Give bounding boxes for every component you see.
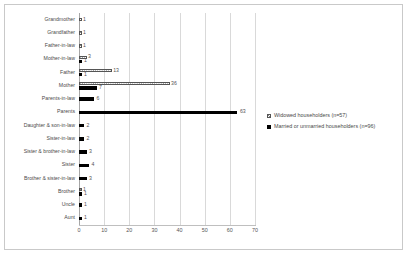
- bar-value-label: 36: [171, 81, 177, 86]
- bar-married: 6: [79, 97, 94, 100]
- bar-rows: Grandmother1Grandfather1Father-in-law1Mo…: [79, 13, 255, 225]
- bar-married: 3: [79, 150, 87, 153]
- bar-row: Parents63: [79, 106, 255, 119]
- bar-row: Daughter & son-in-law2: [79, 119, 255, 132]
- bar-row: Sister-in-law2: [79, 132, 255, 145]
- bar-value-label: 1: [83, 44, 86, 49]
- bar-value-label: 1: [83, 17, 86, 22]
- x-tick-label: 0: [78, 228, 81, 233]
- x-tick-label: 40: [177, 228, 183, 233]
- bar-married: 1: [79, 203, 82, 206]
- bar-row: Sister4: [79, 159, 255, 172]
- bar-value-label: 7: [99, 85, 102, 90]
- category-label: Aunt: [64, 216, 75, 221]
- x-tick-label: 60: [227, 228, 233, 233]
- plot-area: Grandmother1Grandfather1Father-in-law1Mo…: [79, 13, 255, 225]
- legend-item[interactable]: Widowed householders (n=57): [267, 113, 407, 118]
- legend-label: Widowed householders (n=57): [274, 113, 347, 118]
- category-label: Father-in-law: [45, 44, 75, 49]
- category-label: Brother & sister-in-law: [24, 176, 75, 181]
- bar-married: 1: [79, 60, 82, 63]
- category-label: Grandfather: [47, 30, 75, 35]
- bar-widowed: 1: [79, 44, 82, 47]
- legend-swatch-married-icon: [267, 125, 271, 129]
- gridline-70: [255, 13, 256, 225]
- x-tick-label: 20: [126, 228, 132, 233]
- category-label: Sister-in-law: [46, 136, 75, 141]
- bar-value-label: 1: [83, 30, 86, 35]
- bar-value-label: 63: [240, 110, 246, 115]
- category-label: Father: [60, 70, 75, 75]
- bar-value-label: 3: [89, 176, 92, 181]
- category-label: Daughter & son-in-law: [24, 123, 75, 128]
- x-tick-label: 70: [252, 228, 258, 233]
- bar-married: 2: [79, 137, 84, 140]
- category-label: Sister & brother-in-law: [24, 150, 75, 155]
- legend-swatch-widowed-icon: [267, 114, 271, 118]
- bar-widowed: 1: [79, 31, 82, 34]
- bar-married: 1: [79, 192, 82, 195]
- bar-married: 63: [79, 111, 237, 114]
- chart-container: Grandmother1Grandfather1Father-in-law1Mo…: [4, 4, 403, 250]
- bar-married: 2: [79, 124, 84, 127]
- bar-widowed: 1: [79, 188, 82, 191]
- bar-row: Grandfather1: [79, 26, 255, 39]
- category-label: Parents-in-law: [42, 97, 75, 102]
- category-label: Parents: [57, 110, 75, 115]
- bar-widowed: 1: [79, 18, 82, 21]
- bar-value-label: 1: [84, 59, 87, 64]
- bar-married: 4: [79, 164, 89, 167]
- bar-value-label: 1: [84, 191, 87, 196]
- bar-row: Uncle1: [79, 199, 255, 212]
- bar-row: Brother & sister-in-law3: [79, 172, 255, 185]
- x-tick-label: 10: [101, 228, 107, 233]
- category-label: Mother: [59, 83, 75, 88]
- bar-value-label: 2: [87, 136, 90, 141]
- bar-value-label: 4: [92, 163, 95, 168]
- bar-married: 1: [79, 73, 82, 76]
- bar-row: Father131: [79, 66, 255, 79]
- bar-row: Grandmother1: [79, 13, 255, 26]
- category-label: Mother-in-law: [44, 57, 75, 62]
- bar-married: 1: [79, 217, 82, 220]
- bar-value-label: 2: [87, 123, 90, 128]
- category-label: Brother: [58, 189, 75, 194]
- category-label: Grandmother: [44, 17, 75, 22]
- bar-value-label: 6: [97, 97, 100, 102]
- bar-row: Mother367: [79, 79, 255, 92]
- bar-married: 7: [79, 86, 97, 89]
- x-tick-label: 50: [202, 228, 208, 233]
- bar-row: Aunt1: [79, 212, 255, 225]
- bar-value-label: 13: [113, 68, 119, 73]
- bar-value-label: 1: [84, 72, 87, 77]
- legend-item[interactable]: Married or unmarried householders (n=96): [267, 124, 407, 129]
- bar-row: Father-in-law1: [79, 40, 255, 53]
- x-axis-tick-labels: 010203040506070: [79, 228, 255, 240]
- bar-row: Brother11: [79, 185, 255, 198]
- x-tick-label: 30: [151, 228, 157, 233]
- bar-value-label: 1: [84, 216, 87, 221]
- chart-legend: Widowed householders (n=57)Married or un…: [267, 113, 407, 136]
- bar-row: Parents-in-law6: [79, 93, 255, 106]
- bar-row: Mother-in-law31: [79, 53, 255, 66]
- bar-married: 3: [79, 177, 87, 180]
- category-label: Sister: [62, 163, 75, 168]
- bar-value-label: 3: [88, 55, 91, 60]
- category-label: Uncle: [62, 203, 75, 208]
- legend-label: Married or unmarried householders (n=96): [274, 124, 375, 129]
- x-axis-line: [79, 225, 256, 226]
- bar-widowed: 36: [79, 82, 170, 85]
- bar-value-label: 1: [84, 203, 87, 208]
- bar-row: Sister & brother-in-law3: [79, 146, 255, 159]
- bar-value-label: 3: [89, 150, 92, 155]
